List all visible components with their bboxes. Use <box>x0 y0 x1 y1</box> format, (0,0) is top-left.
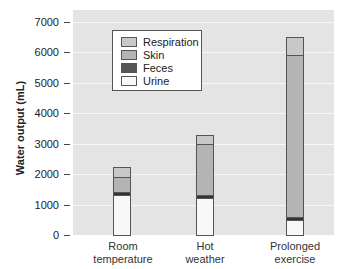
y-tick-label: 3000 <box>35 138 59 150</box>
y-tick <box>64 205 70 206</box>
y-tick <box>64 235 70 236</box>
y-tick-label: 1000 <box>35 199 59 211</box>
bar-segment-skin <box>113 177 131 193</box>
y-tick-label: 6000 <box>35 46 59 58</box>
legend-swatch <box>121 76 137 86</box>
bar-segment-urine <box>196 198 214 236</box>
y-tick <box>64 174 70 175</box>
legend-swatch <box>121 50 137 60</box>
bar-segment-skin <box>196 144 214 197</box>
legend-swatch <box>121 63 137 73</box>
x-tick-label: Roomtemperature <box>78 240 168 266</box>
y-tick <box>64 52 70 53</box>
y-tick-label: 2000 <box>35 168 59 180</box>
legend: Respiration Skin Feces Urine <box>112 30 202 91</box>
gridline <box>73 22 334 23</box>
legend-item-urine: Urine <box>121 75 169 87</box>
x-tick-label: Hotweather <box>160 240 250 266</box>
y-tick-label: 7000 <box>35 16 59 28</box>
y-tick-label: 4000 <box>35 107 59 119</box>
y-tick <box>64 83 70 84</box>
bar-segment-urine <box>286 220 304 236</box>
bar-segment-skin <box>286 55 304 217</box>
legend-item-respiration: Respiration <box>121 36 199 48</box>
y-tick <box>64 22 70 23</box>
legend-label: Skin <box>143 49 164 61</box>
y-tick <box>64 113 70 114</box>
legend-item-skin: Skin <box>121 49 164 61</box>
bar-segment-urine <box>113 195 131 236</box>
bar-segment-respiration <box>286 37 304 56</box>
y-tick-label: 5000 <box>35 77 59 89</box>
bar-segment-respiration <box>113 167 131 179</box>
legend-label: Feces <box>143 62 173 74</box>
legend-swatch <box>121 37 137 47</box>
x-tick-label: Prolongedexercise <box>250 240 339 266</box>
legend-item-feces: Feces <box>121 62 173 74</box>
bar-segment-respiration <box>196 135 214 145</box>
legend-label: Urine <box>143 75 169 87</box>
y-axis-label: Water output (mL) <box>14 68 26 188</box>
y-tick-label: 0 <box>53 229 59 241</box>
y-tick <box>64 144 70 145</box>
legend-label: Respiration <box>143 36 199 48</box>
